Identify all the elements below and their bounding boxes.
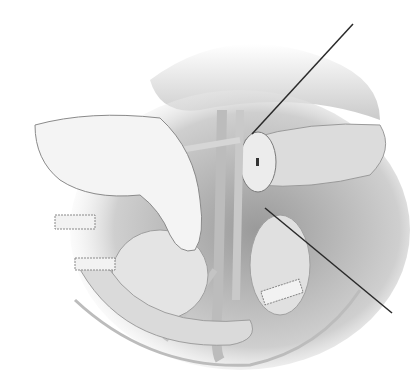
duct-opening bbox=[256, 158, 259, 166]
gauze-pack-1 bbox=[55, 215, 95, 229]
surgical-illustration bbox=[0, 0, 413, 392]
gauze-pack-2 bbox=[75, 258, 115, 270]
illustration-canvas bbox=[0, 0, 413, 392]
